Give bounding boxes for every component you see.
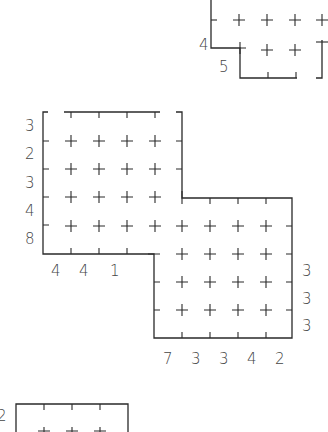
clue-number: 4 <box>51 263 61 279</box>
bottom-left-puzzle-grid <box>16 404 128 432</box>
clue-number: 3 <box>25 118 35 134</box>
clue-number: 3 <box>302 318 312 334</box>
clue-number: 8 <box>25 231 35 247</box>
clue-number: 5 <box>219 59 229 75</box>
clue-number: 2 <box>0 408 7 424</box>
clue-number: 3 <box>219 351 229 367</box>
clue-number: 2 <box>25 146 35 162</box>
top-right-puzzle-grid <box>211 0 328 78</box>
clue-number: 2 <box>275 351 285 367</box>
clue-number: 7 <box>163 351 173 367</box>
main-puzzle-grid <box>43 112 292 338</box>
plus-marks <box>65 135 272 316</box>
clue-number: 3 <box>302 291 312 307</box>
clue-number: 4 <box>199 37 209 53</box>
clue-number: 4 <box>247 351 257 367</box>
clue-number: 3 <box>302 263 312 279</box>
clue-number: 3 <box>25 175 35 191</box>
clue-number: 4 <box>79 263 89 279</box>
clue-number: 1 <box>110 263 120 279</box>
clue-number: 4 <box>25 203 35 219</box>
clue-number: 3 <box>191 351 201 367</box>
